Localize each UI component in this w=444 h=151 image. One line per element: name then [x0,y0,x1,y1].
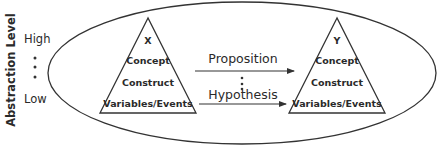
hypothesis-label: Hypothesis [208,87,277,102]
triangle-y-concept: Concept [315,55,359,66]
enclosing-ellipse [48,2,436,144]
abstraction-diagram: Abstraction Level High Low X Concept Con… [0,0,444,151]
triangle-x: X Concept Construct Variables/Events [100,18,196,113]
axis-title: Abstraction Level [4,13,18,127]
triangle-y-variables: Variables/Events [292,98,382,109]
triangle-y: Y Concept Construct Variables/Events [289,18,385,113]
axis-dot [34,76,37,79]
triangle-x-construct: Construct [122,77,175,88]
proposition-label: Proposition [208,51,277,66]
axis-dot [34,66,37,69]
axis-high-label: High [24,32,50,46]
triangle-x-variables: Variables/Events [103,98,193,109]
triangle-x-label: X [144,35,152,46]
axis-low-label: Low [24,92,47,106]
relation-dot [241,77,244,80]
triangle-y-label: Y [333,35,341,46]
triangle-x-concept: Concept [126,55,170,66]
triangle-y-construct: Construct [311,77,364,88]
axis-dot [34,57,37,60]
relation-dot [241,83,244,86]
